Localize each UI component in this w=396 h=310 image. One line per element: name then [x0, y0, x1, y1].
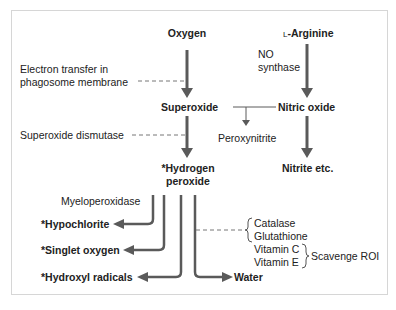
scavenger-vitamin-e: Vitamin E	[254, 256, 299, 269]
brace-scavengers	[245, 218, 252, 242]
diagram-arrows	[0, 0, 396, 310]
connector-peroxynitrite	[233, 107, 276, 126]
brace-vitamins	[302, 244, 309, 268]
node-hydrogen-peroxide-2: peroxide	[155, 175, 221, 188]
node-nitric-oxide: Nitric oxide	[278, 101, 335, 114]
node-oxygen: Oxygen	[160, 27, 214, 40]
label-electron-transfer-2: phagosome membrane	[20, 76, 128, 89]
arrow-oxygen-superoxide	[181, 50, 193, 98]
arrow-superoxide-hydrogen-peroxide	[181, 116, 193, 158]
arrow-hydroxyl-radicals	[137, 195, 181, 282]
label-myeloperoxidase: Myeloperoxidase	[61, 195, 140, 208]
label-electron-transfer-1: Electron transfer in	[20, 63, 108, 76]
arrow-nitric-oxide-nitrite	[301, 116, 313, 158]
scavenger-vitamin-c: Vitamin C	[254, 243, 299, 256]
label-superoxide-dismutase: Superoxide dismutase	[20, 129, 124, 142]
node-peroxynitrite: Peroxynitrite	[218, 132, 276, 145]
label-no-synthase-2: synthase	[258, 61, 300, 74]
node-l-arginine: L-Arginine	[283, 27, 334, 41]
arrow-water	[195, 195, 233, 282]
node-water: Water	[234, 271, 263, 284]
node-superoxide: Superoxide	[161, 101, 218, 114]
label-no-synthase-1: NO	[258, 48, 274, 61]
arrow-arginine-nitric-oxide	[301, 44, 313, 98]
label-scavenge-roi: Scavenge ROI	[311, 250, 379, 263]
node-nitrite: Nitrite etc.	[282, 162, 333, 175]
node-singlet-oxygen: *Singlet oxygen	[41, 244, 120, 257]
node-hydrogen-peroxide-1: *Hydrogen	[155, 162, 221, 175]
node-hypochlorite: *Hypochlorite	[41, 218, 109, 231]
node-hydroxyl-radicals: *Hydroxyl radicals	[41, 271, 133, 284]
scavenger-catalase: Catalase	[254, 217, 295, 230]
scavenger-glutathione: Glutathione	[254, 230, 308, 243]
